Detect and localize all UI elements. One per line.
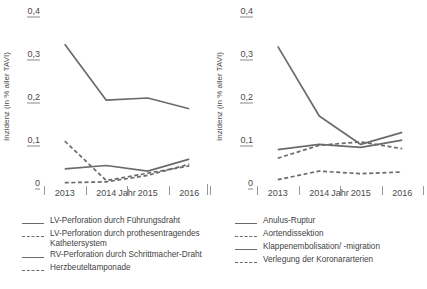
- legend-item: LV-Perforation durch Führungsdraht: [22, 216, 212, 228]
- legend-line-solid-icon: [235, 219, 257, 228]
- plot-svg-left: [44, 12, 210, 184]
- legend-item: Anulus-Ruptur: [235, 216, 425, 228]
- x-axis-separator: [210, 186, 211, 195]
- legend-label: RV-Perforation durch Schrittmacher-Draht: [50, 250, 202, 260]
- legend-line-dashed-icon: [22, 232, 44, 241]
- plot-area-left: 0,40,30,20,10: [44, 12, 210, 184]
- y-axis-tick-label: 0,4: [240, 7, 253, 18]
- legend-line-solid-icon: [22, 219, 44, 228]
- legend-right: Anulus-Ruptur Aortendissektion Klappenem…: [235, 216, 425, 268]
- legend-label: Aortendissektion: [263, 229, 324, 239]
- plot-area-right: 0,40,30,20,10: [257, 12, 423, 184]
- y-axis-tick-label: 0,3: [27, 50, 40, 61]
- legend-label: LV-Perforation durch Führungsdraht: [50, 216, 180, 226]
- y-axis-label-right: Inzidenz (in % aller TAVI): [215, 52, 226, 141]
- legend-item: RV-Perforation durch Schrittmacher-Draht: [22, 250, 212, 262]
- y-axis-tick-label: 0,2: [27, 93, 40, 104]
- legend-line-solid-icon: [235, 245, 257, 254]
- x-axis-label-left: Jahr: [44, 188, 210, 198]
- legend-item: Herzbeuteltamponade: [22, 263, 212, 275]
- y-axis-tick-label: 0: [248, 179, 253, 190]
- y-axis-tick-label: 0,4: [27, 7, 40, 18]
- legend-item: Verlegung der Koronararterien: [235, 255, 425, 267]
- legend-left: LV-Perforation durch Führungsdraht LV-Pe…: [22, 216, 212, 276]
- x-axis-separator: [423, 186, 424, 195]
- chart-panel-right: Inzidenz (in % aller TAVI) 0,40,30,20,10…: [213, 0, 426, 289]
- legend-line-solid-icon: [22, 253, 44, 262]
- legend-item: LV-Perforation durch prothesentragendes …: [22, 229, 212, 249]
- series-line: [278, 142, 403, 158]
- legend-line-dashed-icon: [22, 266, 44, 275]
- series-line: [278, 171, 403, 180]
- y-axis-stub: [207, 184, 208, 195]
- plot-svg-right: [257, 12, 423, 184]
- series-line: [278, 46, 403, 144]
- legend-item: Aortendissektion: [235, 229, 425, 241]
- y-axis-tick-label: 0,3: [240, 50, 253, 61]
- figure-two-line-charts: Inzidenz (in % aller TAVI) 0,40,30,20,10…: [0, 0, 427, 289]
- legend-label: Anulus-Ruptur: [263, 216, 315, 226]
- chart-panel-left: Inzidenz (in % aller TAVI) 0,40,30,20,10…: [0, 0, 213, 289]
- y-axis-tick-label: 0,1: [240, 136, 253, 147]
- x-axis-label-right: Jahr: [257, 188, 423, 198]
- y-axis-tick-label: 0,1: [27, 136, 40, 147]
- y-axis-label-left: Inzidenz (in % aller TAVI): [2, 52, 13, 141]
- y-axis-tick-label: 0: [35, 179, 40, 190]
- legend-label: Herzbeuteltamponade: [50, 263, 131, 273]
- legend-item: Klappenembolisation/ -migration: [235, 242, 425, 254]
- y-axis-tick-label: 0,2: [240, 93, 253, 104]
- series-line: [65, 44, 190, 109]
- legend-label: Klappenembolisation/ -migration: [263, 242, 380, 252]
- series-line: [65, 141, 190, 181]
- legend-label: Verlegung der Koronararterien: [263, 255, 373, 265]
- legend-line-dashed-icon: [235, 258, 257, 267]
- legend-line-dashed-icon: [235, 232, 257, 241]
- legend-label: LV-Perforation durch prothesentragendes …: [50, 229, 212, 249]
